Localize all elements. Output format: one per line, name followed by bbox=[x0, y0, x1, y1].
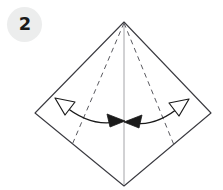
fold-arrow-right bbox=[124, 99, 189, 128]
arrowhead-solid-right bbox=[107, 114, 125, 127]
arrowhead-open-upright bbox=[169, 99, 189, 116]
arrowhead-solid-left bbox=[124, 115, 142, 128]
fold-line-right bbox=[124, 23, 174, 145]
origami-step-figure: 2 bbox=[0, 0, 223, 190]
arrowhead-open-upleft bbox=[55, 98, 75, 115]
fold-line-left bbox=[72, 23, 124, 145]
fold-arrow-left bbox=[55, 98, 125, 127]
origami-diagram bbox=[0, 0, 223, 190]
